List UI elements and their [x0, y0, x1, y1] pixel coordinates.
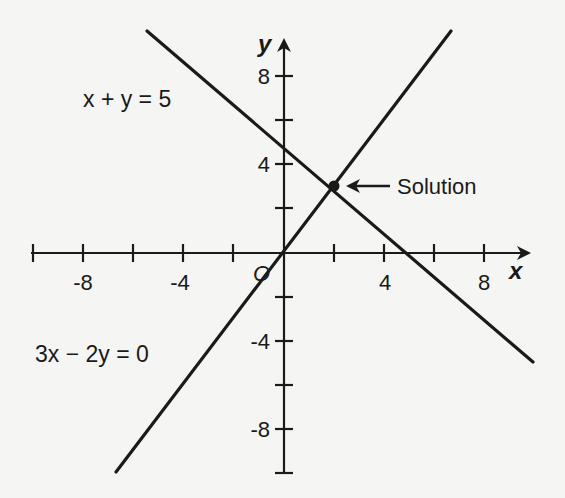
- y-axis: [275, 38, 293, 474]
- x-tick-label: 4: [379, 270, 391, 295]
- x-tick-label: 8: [478, 270, 490, 295]
- solution-label: Solution: [397, 174, 477, 199]
- solution-point: [329, 181, 340, 192]
- y-axis-label: y: [257, 30, 273, 57]
- equation-label-1: x + y = 5: [83, 86, 171, 112]
- x-tick-label: -8: [73, 270, 93, 295]
- x-tick-label: -4: [170, 270, 190, 295]
- origin-label: O: [253, 261, 270, 286]
- y-tick-label: 8: [258, 64, 270, 89]
- y-tick-label: -4: [250, 329, 270, 354]
- y-tick-label: 4: [258, 152, 270, 177]
- solution-arrow-icon: [346, 179, 390, 193]
- y-tick-label: -8: [250, 417, 270, 442]
- system-of-equations-graph: Solution x + y = 5 3x − 2y = 0 x y O -8 …: [0, 0, 565, 498]
- x-axis-label: x: [507, 257, 524, 284]
- equation-label-2: 3x − 2y = 0: [35, 341, 149, 367]
